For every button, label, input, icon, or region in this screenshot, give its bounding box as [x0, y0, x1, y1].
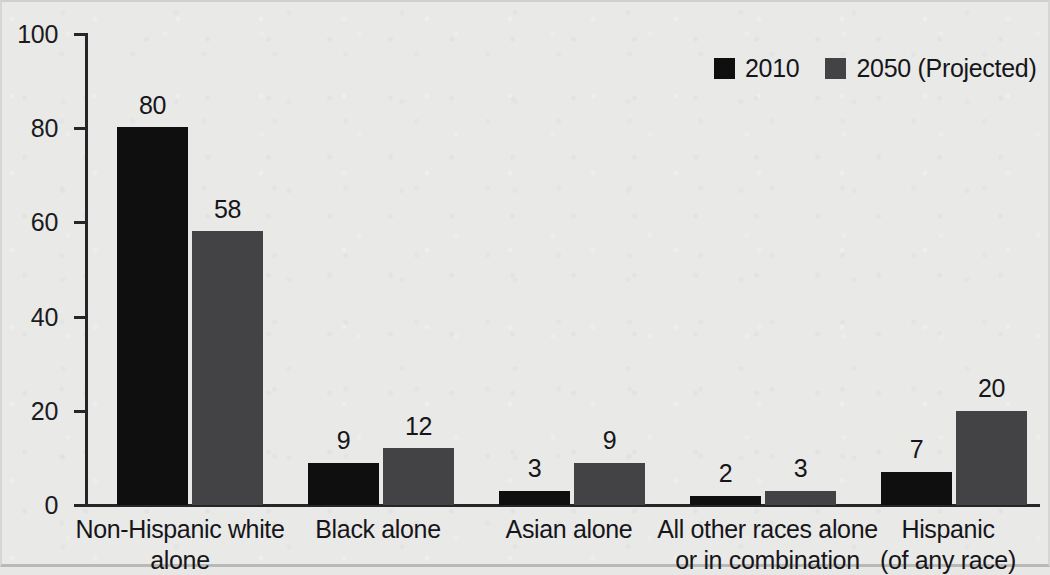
category-label-line1: Black alone — [315, 515, 440, 543]
category-label-line2: alone — [40, 545, 320, 575]
category-label-line1: Non-Hispanic white — [75, 515, 284, 543]
plot-area — [85, 33, 1040, 505]
y-tick-mark-40 — [74, 316, 85, 319]
value-label-2050-all-other-races: 3 — [765, 456, 836, 481]
value-label-2050-non-hispanic-white-alone: 58 — [192, 197, 263, 222]
y-tick-label-100: 100 — [17, 22, 58, 47]
y-tick-label-40: 40 — [31, 305, 58, 330]
value-label-2050-asian-alone: 9 — [574, 428, 645, 453]
bar-2050-non-hispanic-white-alone[interactable] — [192, 231, 263, 505]
value-label-2050-black-alone: 12 — [383, 414, 454, 439]
value-label-2050-hispanic: 20 — [956, 376, 1027, 401]
bar-2050-hispanic[interactable] — [956, 411, 1027, 505]
bar-2010-asian-alone[interactable] — [499, 491, 570, 505]
y-tick-mark-60 — [74, 221, 85, 224]
category-label-line1: Hispanic — [901, 515, 994, 543]
bar-2050-asian-alone[interactable] — [574, 463, 645, 506]
category-label-hispanic: Hispanic (of any race) — [844, 514, 1050, 575]
y-tick-mark-0 — [74, 504, 85, 507]
value-label-2010-all-other-races: 2 — [690, 461, 761, 486]
value-label-2010-non-hispanic-white-alone: 80 — [117, 93, 188, 118]
y-tick-mark-100 — [74, 33, 85, 36]
y-tick-mark-80 — [74, 127, 85, 130]
y-tick-label-80: 80 — [31, 116, 58, 141]
category-label-line2: (of any race) — [844, 545, 1050, 575]
bar-2050-all-other-races[interactable] — [765, 491, 836, 505]
y-tick-label-20: 20 — [31, 399, 58, 424]
value-label-2010-black-alone: 9 — [308, 428, 379, 453]
value-label-2010-hispanic: 7 — [881, 437, 952, 462]
bar-2050-black-alone[interactable] — [383, 448, 454, 505]
bar-2010-non-hispanic-white-alone[interactable] — [117, 127, 188, 505]
bar-2010-hispanic[interactable] — [881, 472, 952, 505]
bar-2010-all-other-races[interactable] — [690, 496, 761, 505]
bar-2010-black-alone[interactable] — [308, 463, 379, 506]
y-tick-label-60: 60 — [31, 210, 58, 235]
value-label-2010-asian-alone: 3 — [499, 456, 570, 481]
y-tick-mark-20 — [74, 410, 85, 413]
